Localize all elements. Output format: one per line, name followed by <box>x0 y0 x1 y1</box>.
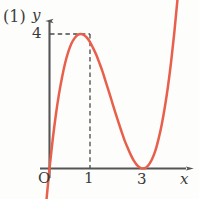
x-tick-label-1: 1 <box>84 171 94 186</box>
x-tick-label-3: 3 <box>137 172 147 187</box>
plot-canvas <box>0 0 199 199</box>
y-axis-label: y <box>32 8 40 23</box>
origin-label: O <box>38 171 50 186</box>
x-axis-label: x <box>180 172 188 187</box>
y-tick-label-4: 4 <box>32 26 42 41</box>
axes-group <box>40 21 186 178</box>
figure-number-label: (1) <box>3 9 26 25</box>
guide-lines-group <box>50 34 90 168</box>
figure-container: (1) y x 4 O 1 3 <box>0 0 199 199</box>
